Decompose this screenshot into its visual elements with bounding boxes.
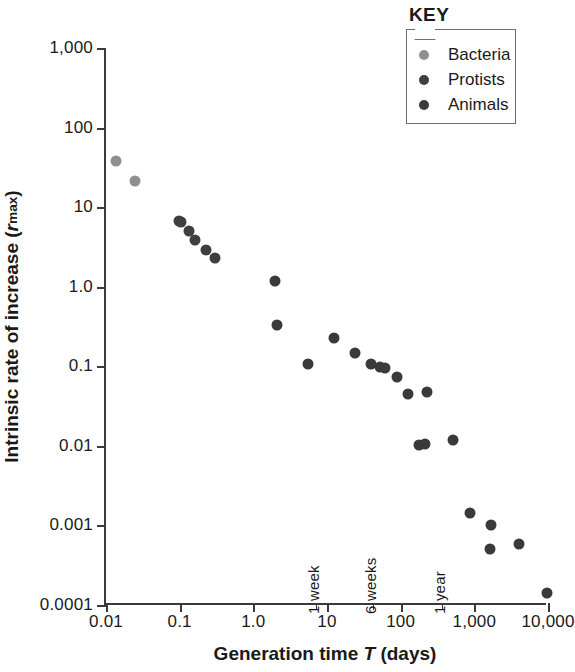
legend-swatch-icon <box>419 50 429 60</box>
legend-item-label: Protists <box>448 70 505 90</box>
data-point-animals <box>485 544 496 555</box>
data-point-animals <box>380 363 391 374</box>
data-point-protists <box>210 252 221 263</box>
y-axis-tick-label: 100 <box>64 118 93 138</box>
y-axis-tick <box>97 48 106 50</box>
x-axis-tick <box>474 603 476 612</box>
x-axis-tick-label: 0.01 <box>89 612 123 632</box>
legend-box: BacteriaProtistsAnimals <box>406 29 516 124</box>
data-point-animals <box>402 388 413 399</box>
data-point-animals <box>391 372 402 383</box>
data-point-animals <box>269 275 280 286</box>
y-axis-tick-label: 1.0 <box>69 277 93 297</box>
data-point-animals <box>422 387 433 398</box>
legend-item-label: Animals <box>448 95 508 115</box>
x-axis-tick <box>180 603 182 612</box>
data-point-protists <box>190 234 201 245</box>
data-point-animals <box>272 320 283 331</box>
x-axis-title-suffix: (days) <box>375 643 436 664</box>
x-axis-tick-label: 100 <box>386 612 415 632</box>
plot-area: 1,000100101.00.10.010.0010.00010.010.11.… <box>104 48 546 605</box>
data-point-bacteria <box>129 175 140 186</box>
x-axis-title: Generation time T (days) <box>104 643 546 665</box>
y-axis-tick <box>97 525 106 527</box>
x-axis-tick <box>327 603 329 612</box>
x-axis-tick <box>253 603 255 612</box>
data-point-animals <box>486 520 497 531</box>
y-axis-title: Intrinsic rate of increase (rmax) <box>0 48 26 605</box>
x-axis-tick-label: 0.1 <box>168 612 192 632</box>
y-axis-tick <box>97 366 106 368</box>
y-axis-tick <box>97 128 106 130</box>
legend-notch <box>415 28 435 40</box>
data-point-animals <box>329 333 340 344</box>
y-axis-title-suffix: ) <box>1 190 23 196</box>
legend-item-bacteria: Bacteria <box>419 46 510 64</box>
y-axis-tick-label: 0.1 <box>69 356 93 376</box>
plot-annotation: 1 week <box>305 565 322 614</box>
x-axis-tick-label: 1.0 <box>241 612 265 632</box>
x-axis-tick-label: 10,000 <box>521 612 574 632</box>
data-point-animals <box>465 507 476 518</box>
data-point-animals <box>350 348 361 359</box>
x-axis-title-prefix: Generation time <box>214 643 364 664</box>
data-point-animals <box>420 439 431 450</box>
x-axis-tick <box>548 603 550 612</box>
y-axis-tick-label: 0.001 <box>49 515 93 535</box>
data-point-bacteria <box>111 156 122 167</box>
data-point-animals <box>448 434 459 445</box>
y-axis-title-symbol: r <box>1 224 23 231</box>
y-axis-tick <box>97 446 106 448</box>
legend-item-protists: Protists <box>419 71 505 89</box>
x-axis-tick <box>106 603 108 612</box>
y-axis-tick-label: 0.0001 <box>40 595 93 615</box>
y-axis-tick-label: 1,000 <box>49 38 93 58</box>
y-axis-title-subscript: max <box>5 197 20 224</box>
y-axis-tick <box>97 207 106 209</box>
legend-item-animals: Animals <box>419 96 508 114</box>
x-axis-tick-label: 1,000 <box>453 612 497 632</box>
x-axis-tick-label: 10 <box>317 612 336 632</box>
data-point-animals <box>542 588 553 599</box>
x-axis-title-symbol: T <box>364 643 376 664</box>
y-axis-tick <box>97 605 106 607</box>
data-point-animals <box>514 539 525 550</box>
y-axis-tick-label: 10 <box>74 197 93 217</box>
plot-annotation: 6 weeks <box>362 558 379 614</box>
data-point-protists <box>174 215 185 226</box>
y-axis-tick <box>97 287 106 289</box>
legend-title: KEY <box>409 4 449 26</box>
y-axis-tick-label: 0.01 <box>59 436 93 456</box>
plot-annotation: 1 year <box>431 571 448 614</box>
x-axis-tick <box>401 603 403 612</box>
data-point-protists <box>200 244 211 255</box>
y-axis-title-prefix: Intrinsic rate of increase ( <box>1 231 23 462</box>
legend-swatch-icon <box>419 100 429 110</box>
data-point-animals <box>303 358 314 369</box>
legend-item-label: Bacteria <box>448 45 510 65</box>
legend-swatch-icon <box>419 75 429 85</box>
